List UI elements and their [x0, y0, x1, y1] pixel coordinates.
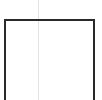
- rectangle-outline: [4, 19, 95, 100]
